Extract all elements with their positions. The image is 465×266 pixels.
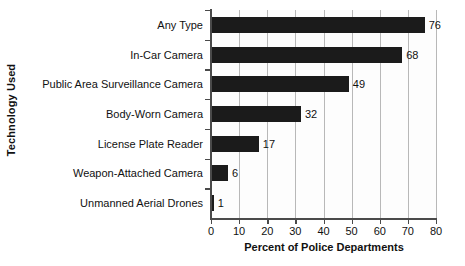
x-axis-tick xyxy=(239,219,240,224)
x-axis-tick-label: 20 xyxy=(255,225,279,237)
x-axis-tick-label: 70 xyxy=(396,225,420,237)
x-axis-title: Percent of Police Departments xyxy=(211,241,437,253)
gridline xyxy=(436,10,437,218)
y-axis-tick xyxy=(205,188,210,189)
y-axis-line xyxy=(210,9,212,219)
x-axis-tick-label: 50 xyxy=(340,225,364,237)
x-axis-tick xyxy=(408,219,409,224)
y-axis-tick xyxy=(205,69,210,70)
y-axis-tick-label: Unmanned Aerial Drones xyxy=(80,196,203,210)
y-axis-tick-labels: Any TypeIn-Car CameraPublic Area Surveil… xyxy=(22,10,207,218)
bar xyxy=(211,136,259,152)
gridline xyxy=(324,10,325,218)
x-axis-tick xyxy=(436,219,437,224)
x-axis-tick xyxy=(211,219,212,224)
bar-value-label: 1 xyxy=(214,195,224,211)
y-axis-tick xyxy=(205,129,210,130)
bar xyxy=(211,47,402,63)
y-axis-tick-label: In-Car Camera xyxy=(130,48,203,62)
bar-value-label: 49 xyxy=(349,76,365,92)
bar-chart: Technology Used Any TypeIn-Car CameraPub… xyxy=(0,0,465,266)
y-axis-tick xyxy=(205,99,210,100)
x-axis-tick xyxy=(352,219,353,224)
y-axis-tick xyxy=(205,40,210,41)
y-axis-tick-label: Public Area Surveillance Camera xyxy=(42,77,203,91)
x-axis-tick xyxy=(295,219,296,224)
y-axis-title-text: Technology Used xyxy=(5,64,17,156)
x-axis-tick-label: 30 xyxy=(283,225,307,237)
y-axis-tick xyxy=(205,10,210,11)
bar-value-label: 17 xyxy=(259,136,275,152)
bar-value-label: 68 xyxy=(402,47,418,63)
bar-value-label: 6 xyxy=(228,165,238,181)
y-axis-tick-label: Body-Worn Camera xyxy=(106,107,203,121)
gridline xyxy=(352,10,353,218)
bar xyxy=(211,106,301,122)
x-axis-tick-label: 0 xyxy=(199,225,223,237)
y-axis-tick xyxy=(205,159,210,160)
y-axis-tick-label: Weapon-Attached Camera xyxy=(73,166,203,180)
y-axis-tick-label: Any Type xyxy=(157,18,203,32)
gridline xyxy=(408,10,409,218)
y-axis-title: Technology Used xyxy=(0,0,22,220)
x-axis-tick xyxy=(380,219,381,224)
bar-value-label: 76 xyxy=(425,17,441,33)
bar xyxy=(211,76,349,92)
bar xyxy=(211,165,228,181)
y-axis-tick-label: License Plate Reader xyxy=(98,137,203,151)
x-axis-tick-label: 10 xyxy=(227,225,251,237)
x-axis-tick-label: 40 xyxy=(312,225,336,237)
x-axis-tick-label: 60 xyxy=(368,225,392,237)
x-axis-tick xyxy=(324,219,325,224)
bar-value-label: 32 xyxy=(301,106,317,122)
x-axis-tick xyxy=(267,219,268,224)
bar xyxy=(211,17,425,33)
x-axis-tick-label: 80 xyxy=(424,225,448,237)
plot-area: 766849321761 xyxy=(211,10,436,218)
gridline xyxy=(380,10,381,218)
